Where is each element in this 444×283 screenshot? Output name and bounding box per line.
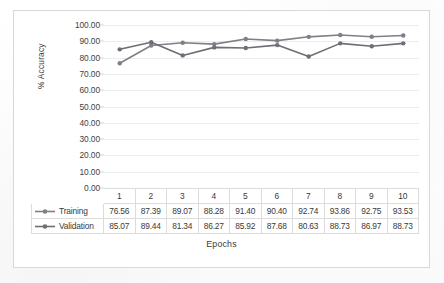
table-cell-value: 91.40 xyxy=(230,204,262,219)
data-point-marker xyxy=(244,37,248,41)
data-point-marker xyxy=(244,46,248,50)
table-header-row: 12345678910 xyxy=(32,189,419,204)
data-point-marker xyxy=(370,44,374,48)
data-point-marker xyxy=(212,45,216,49)
y-axis-tick-label: 10.00 xyxy=(80,167,100,177)
legend-label: Training xyxy=(59,206,88,216)
x-axis-category-label: 6 xyxy=(261,189,293,204)
data-point-marker xyxy=(118,61,122,65)
y-axis-tick-label: 40.00 xyxy=(80,118,100,128)
legend-entry-training: Training xyxy=(32,204,104,219)
x-axis-category-label: 5 xyxy=(230,189,262,204)
legend-entry-validation: Validation xyxy=(32,219,104,234)
x-axis-category-label: 4 xyxy=(198,189,230,204)
table-row: Training76.5687.3989.0788.2891.4090.4092… xyxy=(32,204,419,219)
y-axis-tick-label: 70.00 xyxy=(80,69,100,79)
table-cell-value: 89.07 xyxy=(167,204,199,219)
data-point-marker xyxy=(338,33,342,37)
table-cell-value: 88.73 xyxy=(324,219,356,234)
x-axis-category-label: 7 xyxy=(293,189,325,204)
table-cell-value: 86.27 xyxy=(198,219,230,234)
table-cell-value: 76.56 xyxy=(104,204,136,219)
data-point-marker xyxy=(275,43,279,47)
table-row: Validation85.0789.4481.3486.2785.9287.68… xyxy=(32,219,419,234)
table-cell-value: 81.34 xyxy=(167,219,199,234)
table-cell-value: 88.28 xyxy=(198,204,230,219)
data-point-marker xyxy=(307,54,311,58)
legend-marker-icon xyxy=(34,207,56,216)
data-point-marker xyxy=(401,41,405,45)
data-point-marker xyxy=(401,33,405,37)
y-axis-tick-label: 30.00 xyxy=(80,134,100,144)
data-point-marker xyxy=(149,40,153,44)
y-axis-tick-label: 20.00 xyxy=(80,150,100,160)
table-cell-value: 93.53 xyxy=(387,204,419,219)
chart-frame: % Accuracy 100.0090.0080.0070.0060.0050.… xyxy=(13,10,430,268)
table-cell-value: 87.68 xyxy=(261,219,293,234)
data-point-marker xyxy=(307,35,311,39)
data-point-marker xyxy=(118,47,122,51)
legend-marker-icon xyxy=(34,222,56,231)
data-point-marker xyxy=(338,41,342,45)
x-axis-category-label: 2 xyxy=(135,189,167,204)
y-axis-tick-label: 90.00 xyxy=(80,36,100,46)
series-lines xyxy=(104,25,419,188)
data-point-marker xyxy=(275,38,279,42)
y-axis-tick-label: 50.00 xyxy=(80,102,100,112)
table-cell-value: 85.07 xyxy=(104,219,136,234)
table-cell-value: 89.44 xyxy=(135,219,167,234)
data-table: 12345678910Training76.5687.3989.0788.289… xyxy=(31,188,419,234)
table-cell-value: 80.63 xyxy=(293,219,325,234)
table-cell-value: 85.92 xyxy=(230,219,262,234)
y-axis-tick-label: 80.00 xyxy=(80,53,100,63)
y-axis-tick-label: 60.00 xyxy=(80,85,100,95)
x-axis-category-label: 1 xyxy=(104,189,136,204)
legend-label: Validation xyxy=(59,221,94,231)
y-axis-title: % Accuracy xyxy=(36,43,46,89)
table-cell-value: 92.75 xyxy=(356,204,388,219)
data-point-marker xyxy=(370,35,374,39)
x-axis-category-label: 9 xyxy=(356,189,388,204)
table-corner-cell xyxy=(32,189,104,204)
data-point-marker xyxy=(181,41,185,45)
data-point-marker xyxy=(181,53,185,57)
x-axis-title: Epochs xyxy=(14,239,429,249)
y-axis-tick-label: 100.00 xyxy=(75,20,100,30)
table-cell-value: 92.74 xyxy=(293,204,325,219)
x-axis-category-label: 10 xyxy=(387,189,419,204)
table-cell-value: 93.86 xyxy=(324,204,356,219)
table-cell-value: 88.73 xyxy=(387,219,419,234)
x-axis-category-label: 3 xyxy=(167,189,199,204)
series-line-training xyxy=(120,35,404,63)
table-cell-value: 87.39 xyxy=(135,204,167,219)
plot-area: 100.0090.0080.0070.0060.0050.0040.0030.0… xyxy=(104,25,419,188)
table-cell-value: 86.97 xyxy=(356,219,388,234)
x-axis-category-label: 8 xyxy=(324,189,356,204)
table-cell-value: 90.40 xyxy=(261,204,293,219)
